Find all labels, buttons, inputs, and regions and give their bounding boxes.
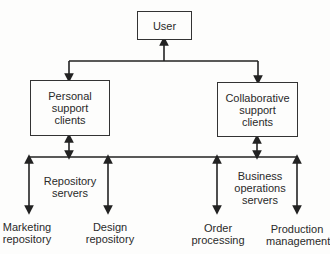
collaborative-support-clients-label: Collaborative support clients <box>225 92 289 128</box>
collaborative-support-clients-node: Collaborative support clients <box>217 82 298 137</box>
personal-support-clients-label: Personal support clients <box>48 90 91 126</box>
order-processing-label: Order processing <box>190 222 246 246</box>
production-management-label: Production management <box>266 223 328 247</box>
repository-servers-label: Repository servers <box>36 175 104 199</box>
marketing-repository-label: Marketing repository <box>0 221 54 245</box>
business-operations-servers-label: Business operations servers <box>225 170 295 206</box>
user-label: User <box>153 20 176 32</box>
user-node: User <box>137 11 192 40</box>
personal-support-clients-node: Personal support clients <box>30 80 110 136</box>
cropped-caption <box>4 249 154 254</box>
design-repository-label: Design repository <box>82 221 138 245</box>
